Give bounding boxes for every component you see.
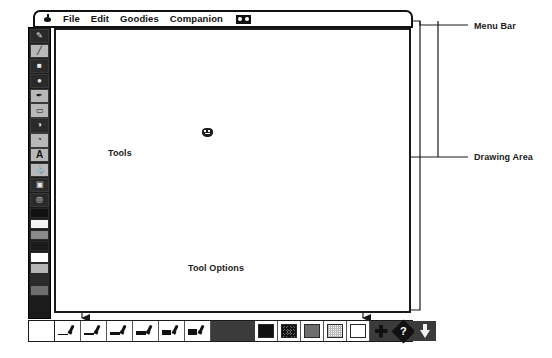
tool-oval[interactable]: ● <box>30 74 49 88</box>
pattern-swatch-white <box>350 324 366 338</box>
brush-nib-icon-6 <box>198 325 206 335</box>
tool-rectangle[interactable]: ■ <box>30 59 49 73</box>
pattern-swatch-light <box>327 324 343 338</box>
brush-width-1[interactable] <box>55 321 81 341</box>
brush-width-6[interactable] <box>185 321 211 341</box>
tool-palette: ✎ ╱ ■ ● ✒ ▭ ◑ <box>28 27 51 319</box>
down-arrow-icon <box>420 324 430 338</box>
pattern-mixer-button[interactable] <box>370 321 392 341</box>
menu-bar: File Edit Goodies Companion <box>33 10 413 28</box>
brush-icon: ✒ <box>32 91 47 101</box>
palette-swatch-3[interactable] <box>30 230 49 241</box>
brush-width-4[interactable] <box>133 321 159 341</box>
truck-icon: ▣ <box>32 180 47 190</box>
glasses-lens-right <box>245 17 249 21</box>
tool-options-divider <box>211 321 255 341</box>
help-question-glyph: ? <box>400 325 407 336</box>
mix-icon <box>375 325 388 338</box>
tool-options-leading-blank <box>29 321 55 341</box>
tool-brush[interactable]: ✒ <box>30 89 49 103</box>
brush-width-5[interactable] <box>159 321 185 341</box>
pattern-medium-gray[interactable] <box>301 321 324 341</box>
palette-swatch-8[interactable] <box>30 285 49 296</box>
tool-options-bar: ? <box>28 320 413 342</box>
pattern-swatch-dense <box>281 324 297 338</box>
brush-nib-icon-3 <box>120 325 128 335</box>
pattern-solid-black[interactable] <box>255 321 278 341</box>
palette-swatch-2[interactable] <box>30 219 49 230</box>
pattern-light-dither[interactable] <box>324 321 347 341</box>
paint-application-window: File Edit Goodies Companion ✎ ╱ ■ <box>28 10 413 342</box>
menu-item-companion[interactable]: Companion <box>170 14 223 24</box>
tool-spray-can[interactable]: ◔ <box>30 133 49 147</box>
brush-nib-icon-2 <box>94 325 102 335</box>
pattern-swatch-gray <box>304 324 320 338</box>
brush-stroke-4 <box>136 331 146 335</box>
palette-swatch-1[interactable] <box>30 208 49 219</box>
tool-text[interactable]: A <box>30 148 49 162</box>
eraser-icon: ▭ <box>32 105 47 115</box>
glasses-lens-left <box>238 17 242 21</box>
brush-stroke-6 <box>188 329 197 335</box>
pattern-white[interactable] <box>347 321 370 341</box>
apple-icon[interactable] <box>43 14 52 24</box>
tool-stamp[interactable]: ⚓ <box>30 163 49 177</box>
help-diamond-icon: ? <box>391 319 415 343</box>
sprite-eye-left <box>204 130 206 132</box>
help-button[interactable]: ? <box>392 321 414 341</box>
spray-can-icon: ◔ <box>32 135 47 145</box>
menu-item-edit[interactable]: Edit <box>91 14 109 24</box>
stamp-icon: ⚓ <box>32 165 47 175</box>
diagram-root: File Edit Goodies Companion ✎ ╱ ■ <box>0 0 552 358</box>
pencil-icon: ✎ <box>32 31 47 41</box>
tool-line[interactable]: ╱ <box>30 44 49 58</box>
oval-icon: ● <box>32 76 47 86</box>
line-icon: ╱ <box>32 46 47 56</box>
palette-swatch-6[interactable] <box>30 263 49 274</box>
text-a-icon: A <box>32 150 47 160</box>
drawing-area-canvas[interactable] <box>54 28 411 313</box>
tool-undo[interactable]: ◎ <box>30 193 49 207</box>
brush-width-3[interactable] <box>107 321 133 341</box>
glasses-icon[interactable] <box>236 15 251 24</box>
rectangle-icon: ■ <box>32 61 47 71</box>
tool-eraser[interactable]: ▭ <box>30 103 49 117</box>
paint-bucket-icon: ◑ <box>32 120 47 130</box>
brush-stroke-2 <box>84 333 94 335</box>
canvas-sprite-icon <box>202 127 213 139</box>
menu-item-file[interactable]: File <box>63 14 80 24</box>
undo-icon: ◎ <box>32 195 47 205</box>
pattern-dense-dither[interactable] <box>278 321 301 341</box>
palette-swatch-5[interactable] <box>30 252 49 263</box>
tool-paint-bucket[interactable]: ◑ <box>30 118 49 132</box>
brush-nib-icon-5 <box>172 325 180 335</box>
brush-width-2[interactable] <box>81 321 107 341</box>
pattern-swatch-black <box>258 324 274 338</box>
sprite-eye-right <box>208 130 210 132</box>
tool-pencil[interactable]: ✎ <box>30 29 49 43</box>
brush-nib-icon-4 <box>146 325 154 335</box>
brush-stroke-1 <box>58 334 68 335</box>
menu-item-goodies[interactable]: Goodies <box>120 14 159 24</box>
window-body: ✎ ╱ ■ ● ✒ ▭ ◑ <box>28 27 413 342</box>
brush-stroke-5 <box>162 330 171 335</box>
palette-swatch-7[interactable] <box>30 274 49 285</box>
sprite-mouth <box>205 133 210 134</box>
tool-truck[interactable]: ▣ <box>30 178 49 192</box>
download-button[interactable] <box>414 321 436 341</box>
palette-swatch-4[interactable] <box>30 241 49 252</box>
brush-nib-icon-1 <box>68 325 76 335</box>
